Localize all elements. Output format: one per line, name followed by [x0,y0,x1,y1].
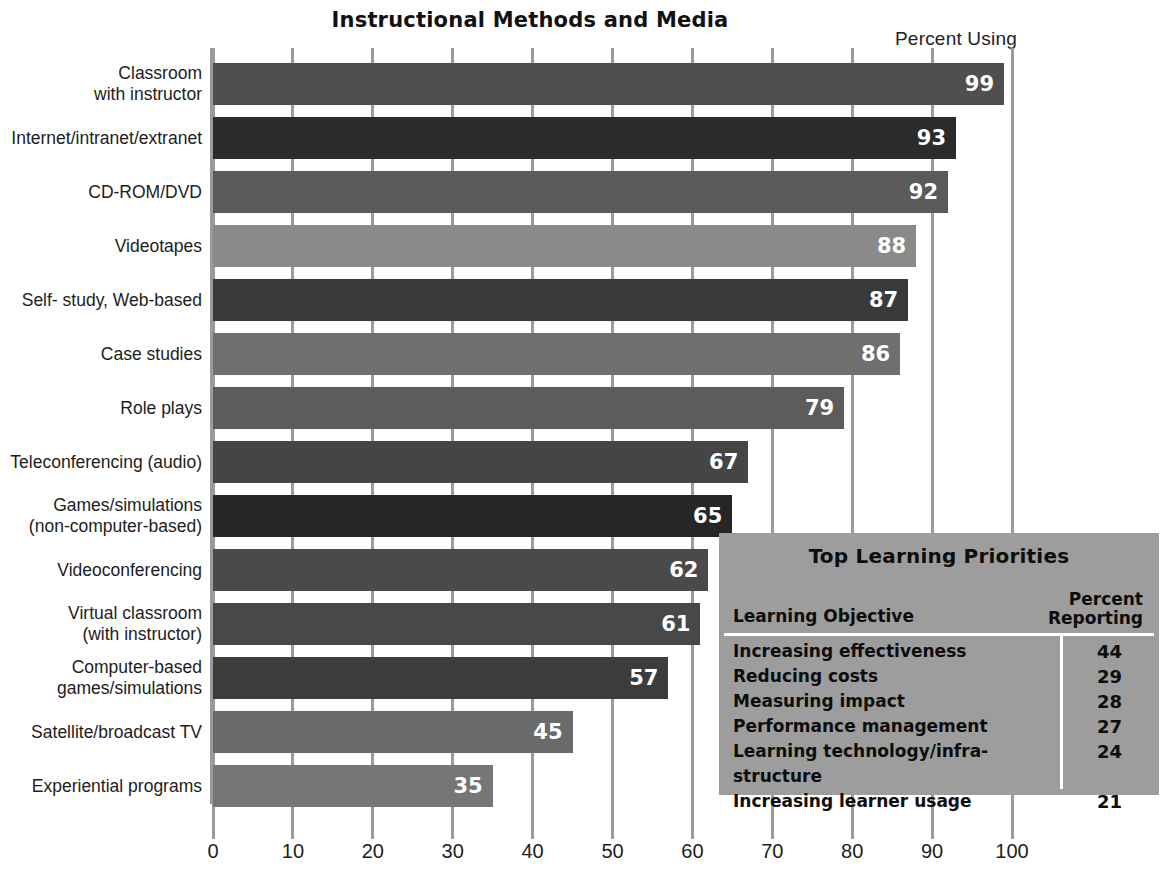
table-cell-percent: 28 [1060,689,1159,714]
bar: 87 [213,279,908,321]
table-cell-percent: 24 [1060,739,1159,764]
column-header-learning-objective: Learning Objective [733,606,914,626]
bar: 65 [213,495,732,537]
bar: 62 [213,549,708,591]
value-axis-tick-label: 40 [503,840,563,863]
bar-row: Case studies86 [0,333,1176,375]
bar-value-label: 65 [693,506,722,527]
bar-row: Role plays79 [0,387,1176,429]
bar-row: Internet/intranet/extranet93 [0,117,1176,159]
table-title: Top Learning Priorities [719,533,1159,568]
category-label: Virtual classroom (with instructor) [0,603,202,645]
bar-value-label: 62 [669,560,698,581]
table-row: Increasing learner usage21 [719,789,1159,814]
table-row: Performance management27 [719,714,1159,739]
bar-value-label: 35 [453,776,482,797]
column-header-percent-reporting: PercentReporting [1048,590,1143,628]
bar-row: Teleconferencing (audio)67 [0,441,1176,483]
table-row: Reducing costs29 [719,664,1159,689]
bar-value-label: 45 [533,722,562,743]
value-axis-tick-label: 10 [263,840,323,863]
table-cell-objective: Increasing learner usage [733,789,972,814]
table-cell-objective: Increasing effectiveness [733,639,966,664]
table-cell-percent: 44 [1060,639,1159,664]
category-label: Videoconferencing [0,560,202,581]
table-cell-objective: Reducing costs [733,664,878,689]
bar-value-label: 67 [709,452,738,473]
bar-value-label: 93 [917,128,946,149]
category-label: Teleconferencing (audio) [0,452,202,473]
bar: 67 [213,441,748,483]
category-label: Games/simulations (non-computer-based) [0,495,202,537]
category-label: Self- study, Web-based [0,290,202,311]
bar: 99 [213,63,1004,105]
table-cell-percent: 27 [1060,714,1159,739]
value-axis-tick-label: 0 [183,840,243,863]
column-header-percent-line: Reporting [1048,609,1143,628]
bar: 88 [213,225,916,267]
value-axis-tick-label: 20 [343,840,403,863]
bar-row: Self- study, Web-based87 [0,279,1176,321]
table-cell-percent: 29 [1060,664,1159,689]
table-cell-objective: Learning technology/infra- structure [733,739,988,789]
bar-value-label: 99 [965,74,994,95]
bar-value-label: 57 [629,668,658,689]
bar-value-label: 87 [869,290,898,311]
top-learning-priorities-table: Top Learning Priorities Learning Objecti… [719,533,1159,795]
category-label: Videotapes [0,236,202,257]
bar-value-label: 61 [661,614,690,635]
table-header-divider [724,633,1154,636]
table-row: Increasing effectiveness44 [719,639,1159,664]
bar-row: Classroom with instructor99 [0,63,1176,105]
bar: 79 [213,387,844,429]
table-cell-objective: Measuring impact [733,689,905,714]
value-axis-tick-label: 30 [423,840,483,863]
table-cell-objective: Performance management [733,714,988,739]
bar: 57 [213,657,668,699]
category-label: Classroom with instructor [0,63,202,105]
bar: 93 [213,117,956,159]
value-axis-tick-label: 50 [583,840,643,863]
column-header-percent-line: Percent [1048,590,1143,609]
value-axis-tick-label: 80 [822,840,882,863]
table-cell-percent: 21 [1060,789,1159,814]
category-label: Case studies [0,344,202,365]
bar-value-label: 79 [805,398,834,419]
value-axis-tick-label: 60 [662,840,722,863]
bar-value-label: 86 [861,344,890,365]
bar: 86 [213,333,900,375]
category-label: Role plays [0,398,202,419]
bar-row: CD-ROM/DVD92 [0,171,1176,213]
bar: 61 [213,603,700,645]
category-label: Experiential programs [0,776,202,797]
bar: 45 [213,711,573,753]
value-axis-tick-label: 90 [902,840,962,863]
table-row: Measuring impact28 [719,689,1159,714]
bar-row: Games/simulations (non-computer-based)65 [0,495,1176,537]
category-label: Satellite/broadcast TV [0,722,202,743]
table-header-row: Learning Objective PercentReporting [719,568,1159,630]
category-label: CD-ROM/DVD [0,182,202,203]
bar: 35 [213,765,493,807]
bar-row: Videotapes88 [0,225,1176,267]
category-label: Computer-based games/simulations [0,657,202,699]
table-body: Increasing effectiveness44Reducing costs… [719,639,1159,814]
bar-value-label: 88 [877,236,906,257]
value-axis-tick-label: 100 [982,840,1042,863]
table-row: Learning technology/infra- structure24 [719,739,1159,789]
value-axis-tick-label: 70 [742,840,802,863]
bar-value-label: 92 [909,182,938,203]
bar: 92 [213,171,948,213]
category-label: Internet/intranet/extranet [0,128,202,149]
